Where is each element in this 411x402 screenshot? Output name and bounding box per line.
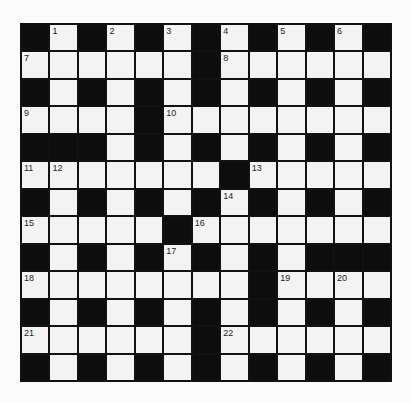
crossword-cell[interactable] — [107, 162, 133, 187]
crossword-cell[interactable] — [307, 162, 333, 187]
crossword-cell[interactable] — [107, 135, 133, 160]
crossword-cell[interactable] — [79, 52, 105, 77]
crossword-cell[interactable] — [221, 217, 247, 242]
crossword-cell[interactable] — [107, 107, 133, 132]
crossword-cell[interactable] — [278, 162, 304, 187]
crossword-cell[interactable] — [107, 52, 133, 77]
crossword-cell[interactable]: 10 — [164, 107, 190, 132]
crossword-cell[interactable]: 8 — [221, 52, 247, 77]
crossword-cell[interactable]: 18 — [22, 272, 48, 297]
crossword-cell[interactable]: 9 — [22, 107, 48, 132]
crossword-cell[interactable]: 11 — [22, 162, 48, 187]
crossword-cell[interactable] — [107, 300, 133, 325]
crossword-cell[interactable] — [335, 327, 361, 352]
crossword-cell[interactable] — [335, 162, 361, 187]
crossword-cell[interactable] — [278, 327, 304, 352]
crossword-cell[interactable] — [107, 217, 133, 242]
crossword-cell[interactable]: 12 — [50, 162, 76, 187]
crossword-cell[interactable] — [50, 272, 76, 297]
crossword-cell[interactable] — [79, 327, 105, 352]
crossword-cell[interactable] — [221, 135, 247, 160]
crossword-cell[interactable] — [307, 272, 333, 297]
crossword-cell[interactable]: 5 — [278, 25, 304, 50]
crossword-cell[interactable] — [79, 272, 105, 297]
crossword-cell[interactable] — [221, 245, 247, 270]
crossword-cell[interactable] — [164, 80, 190, 105]
crossword-cell[interactable] — [50, 327, 76, 352]
crossword-cell[interactable] — [250, 107, 276, 132]
crossword-cell[interactable]: 4 — [221, 25, 247, 50]
crossword-cell[interactable] — [250, 327, 276, 352]
crossword-cell[interactable] — [164, 272, 190, 297]
crossword-cell[interactable] — [250, 52, 276, 77]
crossword-cell[interactable] — [50, 355, 76, 380]
crossword-cell[interactable] — [50, 217, 76, 242]
crossword-cell[interactable]: 14 — [221, 190, 247, 215]
crossword-cell[interactable] — [107, 355, 133, 380]
crossword-cell[interactable]: 13 — [250, 162, 276, 187]
crossword-cell[interactable] — [221, 80, 247, 105]
crossword-cell[interactable] — [278, 80, 304, 105]
crossword-cell[interactable] — [136, 327, 162, 352]
crossword-cell[interactable] — [250, 217, 276, 242]
crossword-cell[interactable] — [50, 52, 76, 77]
crossword-cell[interactable] — [221, 107, 247, 132]
crossword-cell[interactable] — [164, 190, 190, 215]
crossword-cell[interactable] — [335, 135, 361, 160]
crossword-cell[interactable] — [107, 190, 133, 215]
crossword-cell[interactable]: 1 — [50, 25, 76, 50]
crossword-cell[interactable] — [335, 107, 361, 132]
crossword-cell[interactable] — [335, 300, 361, 325]
crossword-cell[interactable]: 19 — [278, 272, 304, 297]
crossword-cell[interactable] — [193, 162, 219, 187]
crossword-cell[interactable] — [364, 272, 390, 297]
crossword-cell[interactable]: 20 — [335, 272, 361, 297]
crossword-cell[interactable] — [307, 327, 333, 352]
crossword-cell[interactable] — [221, 355, 247, 380]
crossword-cell[interactable] — [335, 52, 361, 77]
crossword-cell[interactable]: 17 — [164, 245, 190, 270]
crossword-cell[interactable] — [278, 245, 304, 270]
crossword-cell[interactable] — [307, 52, 333, 77]
crossword-cell[interactable] — [307, 217, 333, 242]
crossword-cell[interactable] — [164, 162, 190, 187]
crossword-cell[interactable] — [335, 355, 361, 380]
crossword-cell[interactable] — [164, 355, 190, 380]
crossword-cell[interactable] — [79, 217, 105, 242]
crossword-cell[interactable] — [364, 327, 390, 352]
crossword-cell[interactable] — [136, 162, 162, 187]
crossword-cell[interactable] — [364, 52, 390, 77]
crossword-cell[interactable] — [335, 80, 361, 105]
crossword-cell[interactable] — [193, 272, 219, 297]
crossword-cell[interactable] — [50, 80, 76, 105]
crossword-cell[interactable] — [50, 107, 76, 132]
crossword-cell[interactable] — [164, 52, 190, 77]
crossword-cell[interactable] — [107, 245, 133, 270]
crossword-cell[interactable] — [364, 162, 390, 187]
crossword-cell[interactable] — [278, 217, 304, 242]
crossword-cell[interactable] — [221, 272, 247, 297]
crossword-cell[interactable] — [278, 355, 304, 380]
crossword-cell[interactable] — [278, 300, 304, 325]
crossword-cell[interactable] — [107, 272, 133, 297]
crossword-cell[interactable] — [307, 107, 333, 132]
crossword-cell[interactable] — [79, 162, 105, 187]
crossword-cell[interactable] — [278, 190, 304, 215]
crossword-cell[interactable] — [50, 190, 76, 215]
crossword-cell[interactable]: 7 — [22, 52, 48, 77]
crossword-cell[interactable] — [278, 52, 304, 77]
crossword-cell[interactable]: 16 — [193, 217, 219, 242]
crossword-cell[interactable]: 22 — [221, 327, 247, 352]
crossword-cell[interactable]: 21 — [22, 327, 48, 352]
crossword-cell[interactable] — [136, 272, 162, 297]
crossword-cell[interactable] — [364, 107, 390, 132]
crossword-cell[interactable] — [335, 190, 361, 215]
crossword-cell[interactable]: 3 — [164, 25, 190, 50]
crossword-cell[interactable] — [107, 80, 133, 105]
crossword-cell[interactable] — [278, 107, 304, 132]
crossword-cell[interactable]: 2 — [107, 25, 133, 50]
crossword-cell[interactable] — [221, 300, 247, 325]
crossword-cell[interactable] — [136, 217, 162, 242]
crossword-cell[interactable] — [164, 135, 190, 160]
crossword-cell[interactable] — [79, 107, 105, 132]
